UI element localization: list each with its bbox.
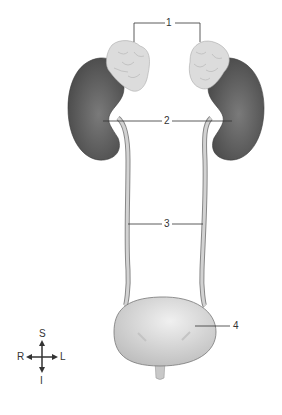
label-1: 1 bbox=[165, 18, 173, 28]
label-2: 2 bbox=[163, 116, 171, 126]
compass-left-label: L bbox=[60, 352, 66, 362]
compass-superior-label: S bbox=[39, 329, 46, 339]
bladder bbox=[114, 297, 216, 380]
compass-inferior-label: I bbox=[40, 376, 43, 386]
label-3: 3 bbox=[163, 219, 171, 229]
ureters bbox=[118, 118, 211, 306]
urinary-system-diagram bbox=[0, 0, 282, 415]
label-4: 4 bbox=[232, 321, 240, 331]
compass-right-label: R bbox=[17, 352, 24, 362]
orientation-compass-icon bbox=[26, 340, 58, 373]
